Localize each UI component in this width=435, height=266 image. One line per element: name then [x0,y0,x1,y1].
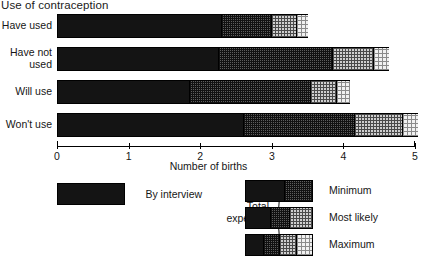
contraception-bar-chart: Use of contraception Have used Have not … [0,0,435,266]
segment-by-interview [58,114,243,136]
bar-row: Will use [57,80,415,104]
x-axis-tick [57,143,58,149]
legend-label-most-likely: Most likely [329,211,378,223]
stacked-bar [57,14,308,38]
swatch-seg-dense [263,235,281,255]
swatch-seg-dense [270,208,290,228]
segment-most-likely [310,81,337,103]
x-axis-tick [343,143,344,149]
x-axis-tick [272,143,273,149]
swatch-seg-medium [289,208,312,228]
legend-swatch-minimum [245,180,313,202]
segment-maximum [373,48,389,70]
swatch-seg-black [246,208,270,228]
category-label: Have used [0,19,52,31]
segment-by-interview [58,48,218,70]
stacked-bar [57,113,418,137]
bar-row: Have used [57,14,415,38]
swatch-seg-black [246,235,263,255]
legend-label-by-interview: By interview [145,188,202,200]
swatch-seg-dense [284,181,312,201]
bar-row: Won't use [57,113,415,137]
category-label: Have not used [0,46,52,70]
category-label: Will use [0,85,52,97]
x-axis-tick [129,143,130,149]
segment-most-likely [271,15,297,37]
category-label: Won't use [0,118,52,130]
segment-maximum [296,15,308,37]
legend-group-total-expected: Totalexpected Minimum Most likely [205,178,435,266]
stacked-bar [57,47,389,71]
x-axis-tick [200,143,201,149]
plot-area: Have used Have not used Will use [57,14,415,146]
segment-maximum [402,114,418,136]
legend-swatch-by-interview [57,183,125,205]
x-axis-line [57,146,415,147]
segment-most-likely [332,48,374,70]
swatch-seg-medium [279,235,297,255]
legend-entry-by-interview: By interview [57,183,202,205]
chart-title: Use of contraception [1,0,108,11]
legend-swatch-maximum [245,234,313,256]
segment-by-interview [58,15,221,37]
segment-minimum [243,114,355,136]
swatch-seg-black [246,181,284,201]
segment-minimum [221,15,272,37]
legend-label-maximum: Maximum [329,238,375,250]
segment-most-likely [354,114,403,136]
segment-by-interview [58,81,189,103]
swatch-seg-sparse [296,235,313,255]
bar-row: Have not used [57,47,415,71]
x-axis-title: Number of births [0,160,435,172]
legend-swatch-most-likely [245,207,313,229]
segment-minimum [189,81,312,103]
segment-minimum [218,48,333,70]
x-axis-tick [415,143,416,149]
legend-label-minimum: Minimum [329,184,372,196]
chart-legend: By interview Totalexpected Minimum [0,178,435,266]
stacked-bar [57,80,350,104]
segment-maximum [336,81,350,103]
